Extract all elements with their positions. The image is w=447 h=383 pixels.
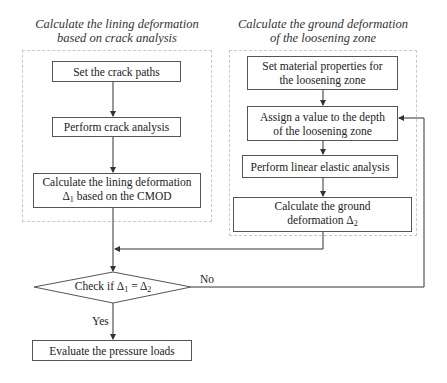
step-calc-lining-deformation: Calculate the lining deformation Δ1 base…: [33, 173, 201, 208]
step-set-material-properties-line1: Set material properties for: [262, 59, 382, 73]
no-label: No: [200, 273, 214, 285]
step-perform-crack-analysis-label: Perform crack analysis: [64, 120, 169, 134]
line2-prefix: deformation Δ: [287, 214, 353, 226]
step-evaluate-pressure-loads-label: Evaluate the pressure loads: [49, 344, 175, 358]
step-set-crack-paths: Set the crack paths: [52, 61, 181, 82]
step-set-material-properties: Set material properties for the loosenin…: [247, 56, 398, 90]
step-calc-lining-deformation-line1: Calculate the lining deformation: [42, 175, 191, 189]
step-calc-ground-deformation: Calculate the ground deformation Δ2: [233, 197, 412, 232]
step-set-crack-paths-label: Set the crack paths: [73, 65, 160, 79]
decision-prefix: Check if Δ: [75, 280, 125, 292]
step-linear-elastic-analysis-label: Perform linear elastic analysis: [251, 160, 390, 174]
step-calc-lining-deformation-line2: Δ1 based on the CMOD: [62, 189, 171, 207]
step-set-material-properties-line2: the loosening zone: [279, 73, 365, 87]
yes-label: Yes: [92, 315, 109, 327]
step-evaluate-pressure-loads: Evaluate the pressure loads: [32, 340, 192, 361]
subscript: 2: [354, 219, 358, 228]
step-calc-ground-deformation-line2: deformation Δ2: [287, 213, 357, 231]
step-calc-ground-deformation-line1: Calculate the ground: [275, 199, 371, 213]
step-linear-elastic-analysis: Perform linear elastic analysis: [242, 155, 398, 178]
step-assign-depth: Assign a value to the depth of the loose…: [247, 106, 398, 141]
decision-label: Check if Δ1 = Δ2: [60, 280, 166, 294]
step-assign-depth-line2: of the loosening zone: [273, 124, 372, 138]
step-perform-crack-analysis: Perform crack analysis: [52, 117, 181, 137]
decision-sub2: 2: [147, 285, 151, 294]
decision-middle: = Δ: [128, 280, 147, 292]
line2-suffix: based on the CMOD: [74, 190, 172, 202]
delta-symbol: Δ: [62, 190, 69, 202]
step-assign-depth-line1: Assign a value to the depth: [260, 110, 385, 124]
